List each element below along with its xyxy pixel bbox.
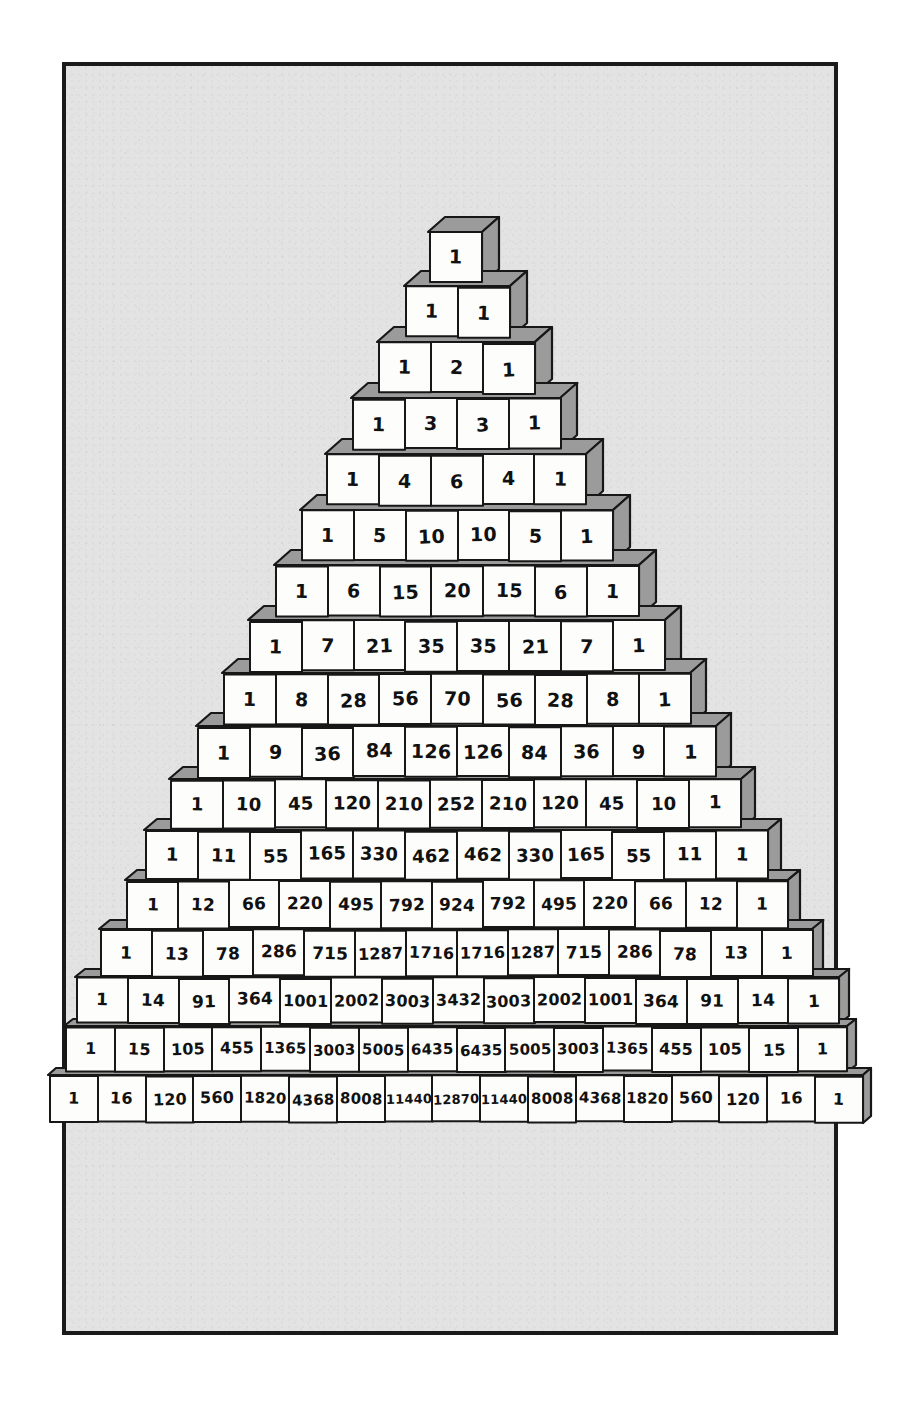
pascal-row-2: 121 <box>377 342 535 394</box>
pascal-cell-value: 11 <box>211 846 237 865</box>
pascal-cell-value: 1 <box>449 247 463 266</box>
pascal-cell-value: 126 <box>463 741 504 761</box>
pascal-cell: 13 <box>710 929 763 977</box>
pascal-cell-value: 91 <box>192 993 217 1011</box>
pascal-cell-value: 715 <box>312 944 348 962</box>
pascal-cell: 1287 <box>354 930 407 978</box>
pascal-cell: 924 <box>431 881 484 930</box>
pascal-cell: 1 <box>736 880 789 929</box>
pascal-cell: 36 <box>560 725 614 777</box>
pascal-cell: 3003 <box>553 1027 604 1073</box>
pascal-cell-value: 14 <box>751 992 775 1010</box>
pascal-cell-value: 105 <box>708 1041 742 1058</box>
pascal-cell-value: 7 <box>321 635 335 655</box>
pascal-cell-value: 1365 <box>606 1040 649 1057</box>
pascal-cell: 6435 <box>407 1026 458 1072</box>
pascal-cell: 15 <box>748 1027 799 1073</box>
pascal-cell-value: 495 <box>541 895 578 913</box>
pascal-cell-value: 21 <box>366 636 394 656</box>
pascal-cell-value: 5005 <box>362 1042 405 1059</box>
pascal-cell: 455 <box>211 1026 262 1072</box>
pascal-cell: 364 <box>635 978 688 1025</box>
pascal-cell-value: 11440 <box>385 1092 431 1106</box>
pascal-cell: 1001 <box>584 977 637 1024</box>
pascal-cell: 220 <box>278 880 331 929</box>
pascal-cell: 3432 <box>432 976 485 1023</box>
pascal-cell: 1 <box>65 1026 116 1072</box>
pascal-cell-value: 10 <box>418 526 446 546</box>
pascal-cell: 4 <box>378 455 432 507</box>
pascal-cell: 1820 <box>240 1075 290 1123</box>
pascal-cell: 6 <box>430 455 484 507</box>
pascal-cell-value: 14 <box>141 992 166 1010</box>
pascal-cell: 5005 <box>504 1026 555 1072</box>
pascal-cell-value: 12 <box>191 896 216 914</box>
pascal-cell: 1 <box>249 621 303 673</box>
pascal-cell: 91 <box>686 978 739 1025</box>
pascal-cell: 10 <box>636 779 690 829</box>
pascal-cell: 1 <box>560 509 614 561</box>
pascal-cell-value: 2002 <box>537 991 583 1008</box>
pascal-cell: 126 <box>456 725 510 777</box>
pascal-cell-value: 252 <box>437 794 476 813</box>
pascal-cell-value: 560 <box>678 1090 712 1107</box>
pascal-row-8: 18285670562881 <box>222 673 690 725</box>
pascal-cell-value: 455 <box>659 1041 693 1058</box>
pascal-cell: 36 <box>301 727 355 779</box>
pascal-cell-value: 1 <box>606 581 620 601</box>
pascal-cell: 78 <box>202 929 255 977</box>
pascal-cell: 792 <box>380 880 433 929</box>
pascal-cell-value: 1 <box>269 637 283 656</box>
pascal-cell: 165 <box>300 829 354 879</box>
pascal-cell: 28 <box>534 674 588 726</box>
pascal-cell: 560 <box>192 1075 242 1123</box>
pascal-cell-value: 4368 <box>292 1092 335 1109</box>
pascal-cell-value: 1 <box>528 413 542 432</box>
pascal-cell-value: 21 <box>521 636 549 656</box>
pascal-cell-value: 462 <box>463 845 502 864</box>
pascal-cell-value: 1 <box>190 795 203 813</box>
pascal-cell: 1287 <box>507 928 560 976</box>
pascal-row-14: 1149136410012002300334323003200210013649… <box>75 977 839 1024</box>
pascal-cell: 5 <box>353 509 407 561</box>
pascal-cell-value: 45 <box>288 794 314 813</box>
pascal-row-0: 1 <box>428 232 482 284</box>
pascal-cell: 84 <box>508 726 562 778</box>
pascal-cell-value: 165 <box>308 844 346 862</box>
pascal-cell: 7 <box>560 620 614 672</box>
pascal-cell: 1 <box>715 829 769 879</box>
pascal-cell-value: 3003 <box>313 1042 356 1059</box>
pascal-cell-value: 1 <box>85 1041 97 1057</box>
pascal-cell-value: 6 <box>554 582 568 601</box>
pascal-cell: 120 <box>325 779 379 829</box>
pascal-cell-value: 6435 <box>459 1042 502 1059</box>
pascal-cell: 165 <box>560 829 614 879</box>
pascal-row-13: 11378286715128717161716128771528678131 <box>99 929 812 977</box>
pascal-cell: 1 <box>482 343 536 395</box>
pascal-cell-value: 1 <box>372 415 386 434</box>
pascal-cell-value: 56 <box>392 688 419 707</box>
pascal-cell: 13 <box>151 930 204 978</box>
pascal-cell: 14 <box>127 977 180 1024</box>
pascal-cell-value: 5 <box>373 525 387 545</box>
pascal-cell-value: 11 <box>677 845 703 863</box>
pascal-cell-value: 20 <box>444 581 471 600</box>
pascal-cell: 1 <box>508 397 562 449</box>
pascal-cell-value: 1 <box>657 690 671 709</box>
pascal-cell-value: 6435 <box>411 1041 454 1057</box>
pascal-cell: 9 <box>612 725 666 777</box>
pascal-cell: 1365 <box>260 1026 311 1072</box>
pascal-cell-value: 16 <box>110 1090 133 1107</box>
pascal-cell-value: 792 <box>388 896 425 914</box>
pascal-cell: 3003 <box>381 978 434 1025</box>
pascal-cell-value: 8 <box>606 689 620 708</box>
pascal-cell: 210 <box>377 780 431 830</box>
pascal-cell: 12 <box>177 880 230 929</box>
pascal-cell-value: 3003 <box>486 992 532 1010</box>
pascal-cell: 1 <box>457 287 511 339</box>
pascal-cell: 14 <box>737 977 790 1024</box>
pascal-cell-value: 1820 <box>244 1090 287 1106</box>
pascal-cell: 1 <box>49 1075 99 1123</box>
pascal-cell-value: 6 <box>450 471 464 490</box>
pascal-row-16: 1161205601820436880081144012870114408008… <box>48 1075 863 1123</box>
